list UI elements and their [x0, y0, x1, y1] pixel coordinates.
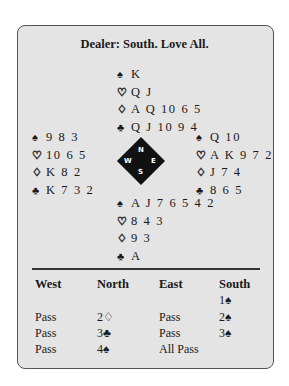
- bid-east: All Pass: [159, 341, 199, 357]
- west-diamonds: ♢K 8 2: [32, 164, 94, 182]
- bid-west: Pass: [35, 325, 56, 341]
- south-hearts: ♡8 4 3: [117, 213, 215, 231]
- north-diamonds: ♢A Q 10 6 5: [117, 101, 202, 119]
- south-clubs: ♣A: [117, 248, 215, 266]
- south-spades: ♠A J 7 6 5 4 2: [117, 195, 215, 213]
- north-spades: ♠K: [117, 66, 202, 84]
- south-hand: ♠A J 7 6 5 4 2 ♡8 4 3 ♢9 3 ♣A: [117, 195, 215, 265]
- header-east: East: [159, 276, 183, 292]
- bid-south: 3♠: [219, 325, 231, 341]
- bid-north: 3♣: [97, 325, 111, 341]
- north-hearts: ♡Q J: [117, 84, 202, 102]
- heart-icon: ♡: [32, 147, 46, 165]
- heart-icon: ♡: [117, 213, 131, 231]
- bid-west: Pass: [35, 341, 56, 357]
- bid-east: Pass: [159, 325, 180, 341]
- east-diamonds: ♢J 7 4: [196, 164, 273, 182]
- spade-icon: ♠: [117, 66, 131, 84]
- spade-icon: ♠: [32, 129, 46, 147]
- club-icon: ♣: [32, 182, 46, 200]
- east-spades: ♠Q 10: [196, 129, 273, 147]
- diamond-icon: ♢: [32, 164, 46, 182]
- bid-south: 2♠: [219, 309, 231, 325]
- west-spades: ♠9 8 3: [32, 129, 94, 147]
- north-clubs: ♣Q J 10 9 4: [117, 119, 202, 137]
- spade-icon: ♠: [196, 129, 210, 147]
- diamond-icon: ♢: [117, 230, 131, 248]
- north-hand: ♠K ♡Q J ♢A Q 10 6 5 ♣Q J 10 9 4: [117, 66, 202, 136]
- compass-east-label: E: [151, 157, 156, 165]
- compass-south-label: S: [138, 168, 143, 176]
- east-hearts: ♡A K 9 7 2: [196, 147, 273, 165]
- compass-west-label: W: [124, 157, 132, 165]
- club-icon: ♣: [117, 119, 131, 137]
- header-north: North: [97, 276, 129, 292]
- south-diamonds: ♢9 3: [117, 230, 215, 248]
- divider: [32, 268, 260, 270]
- bid-north: 2♢: [97, 309, 114, 325]
- west-clubs: ♣K 7 3 2: [32, 182, 94, 200]
- east-hand: ♠Q 10 ♡A K 9 7 2 ♢J 7 4 ♣8 6 5: [196, 129, 273, 199]
- heart-icon: ♡: [117, 84, 131, 102]
- heart-icon: ♡: [196, 147, 210, 165]
- west-hand: ♠9 8 3 ♡10 6 5 ♢K 8 2 ♣K 7 3 2: [32, 129, 94, 199]
- bid-east: Pass: [159, 309, 180, 325]
- club-icon: ♣: [117, 248, 131, 266]
- bid-north: 4♠: [97, 341, 109, 357]
- diamond-icon: ♢: [117, 101, 131, 119]
- header-south: South: [219, 276, 250, 292]
- compass-north-label: N: [138, 146, 144, 154]
- deal-title: Dealer: South. Love All.: [0, 37, 289, 52]
- bid-west: Pass: [35, 309, 56, 325]
- west-hearts: ♡10 6 5: [32, 147, 94, 165]
- header-west: West: [35, 276, 61, 292]
- spade-icon: ♠: [117, 195, 131, 213]
- diamond-icon: ♢: [196, 164, 210, 182]
- bid-south: 1♠: [219, 292, 231, 308]
